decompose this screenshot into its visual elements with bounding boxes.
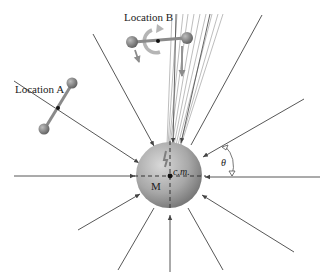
mass-label: M	[151, 180, 161, 192]
center-of-mass-label: c.m.	[173, 166, 190, 177]
location-a-label: Location A	[15, 83, 64, 95]
gravitational-field-diagram: Location A Location B c.m. M θ	[0, 0, 336, 279]
theta-label: θ	[221, 157, 226, 168]
location-b-label: Location B	[124, 11, 173, 23]
center-of-mass-dot	[168, 174, 173, 179]
